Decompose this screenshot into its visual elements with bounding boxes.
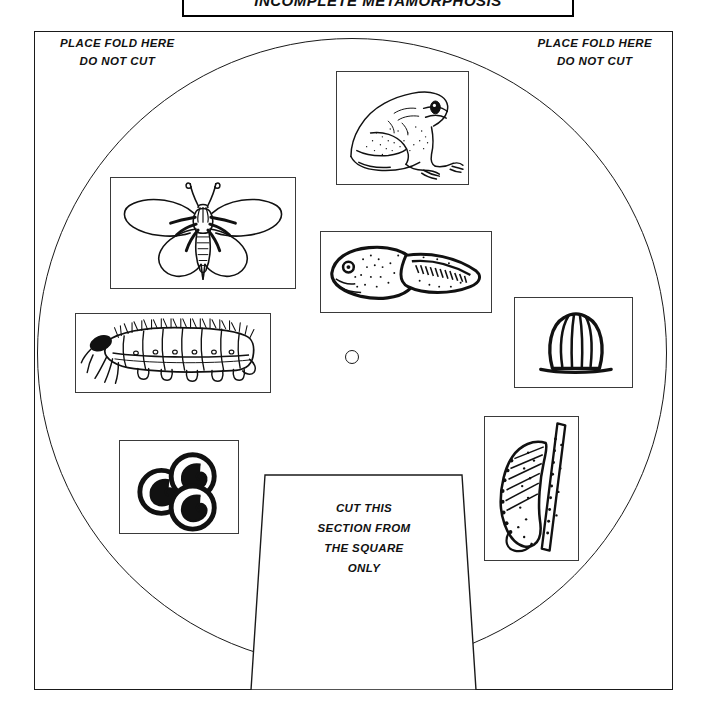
fold-label-left-line2: DO NOT CUT [60,52,175,70]
picture-frame-chrysalis-pupa [484,416,579,561]
picture-frame-adult-moth [110,177,296,289]
fold-label-right: PLACE FOLD HERE DO NOT CUT [537,34,652,70]
chrysalis-pupa-icon [485,417,578,560]
cut-section-text: CUT THIS SECTION FROM THE SQUARE ONLY [273,498,455,578]
cut-section-line4: ONLY [273,558,455,578]
title-box: INCOMPLETE METAMORPHOSIS [182,0,574,17]
caterpillar-larva-icon [76,314,270,392]
cut-section-line2: SECTION FROM [273,518,455,538]
fold-label-left-line1: PLACE FOLD HERE [60,37,175,49]
cut-section-line3: THE SQUARE [273,538,455,558]
metamorphosis-wheel-worksheet: INCOMPLETE METAMORPHOSIS PLACE FOLD HERE… [0,0,707,723]
fold-label-right-line2: DO NOT CUT [537,52,652,70]
insect-egg-icon [515,298,632,387]
adult-frog-icon [337,72,468,184]
picture-frame-frog-egg-cluster [119,440,239,534]
picture-frame-tadpole [320,231,492,313]
fold-label-right-line1: PLACE FOLD HERE [537,37,652,49]
frog-egg-3 [171,486,214,529]
picture-frame-caterpillar-larva [75,313,271,393]
egg-dome [550,314,602,369]
center-hole-marker [345,350,359,364]
tadpole-icon [321,232,491,312]
cut-section-line1: CUT THIS [273,498,455,518]
page-title: INCOMPLETE METAMORPHOSIS [254,0,502,9]
picture-frame-adult-frog [336,71,469,185]
adult-moth-icon [111,178,295,288]
picture-frame-insect-egg [514,297,633,388]
frog-egg-cluster-icon [120,441,238,533]
fold-label-left: PLACE FOLD HERE DO NOT CUT [60,34,175,70]
chrysalis-body [501,442,547,547]
